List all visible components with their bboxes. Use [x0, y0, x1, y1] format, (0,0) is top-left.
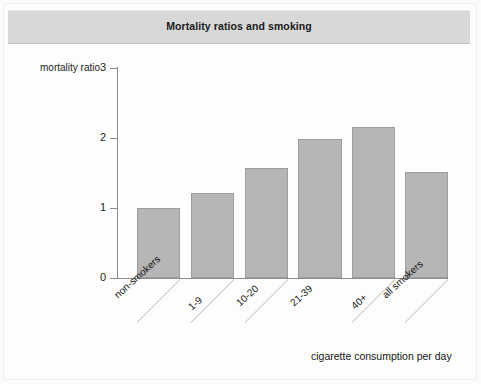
x-axis-title: cigarette consumption per day — [311, 350, 452, 362]
y-tick-label-1: 1 — [84, 201, 106, 213]
y-tick-label-2: 2 — [84, 131, 106, 143]
bar-1-9 — [191, 193, 234, 278]
y-axis-title: mortality ratio — [40, 62, 102, 74]
chart-page: Mortality ratios and smoking 3 2 1 0 mor… — [0, 0, 481, 384]
y-axis-line — [117, 67, 118, 279]
bar-40-plus — [352, 127, 395, 278]
plot-area: 3 2 1 0 mortality ratio non-smokers 1-9 … — [0, 0, 481, 384]
y-tick-2 — [110, 138, 118, 139]
bar-21-39 — [298, 139, 342, 278]
bar-base-1 — [137, 279, 180, 323]
x-tick-label-21-39: 21-39 — [288, 283, 314, 308]
y-tick-1 — [110, 208, 118, 209]
y-tick-3 — [110, 68, 118, 69]
x-tick-label-1-9: 1-9 — [186, 294, 204, 312]
bar-base-6 — [405, 279, 448, 323]
y-tick-label-0: 0 — [84, 271, 106, 283]
x-tick-label-10-20: 10-20 — [234, 283, 260, 308]
bar-10-20 — [245, 168, 288, 278]
